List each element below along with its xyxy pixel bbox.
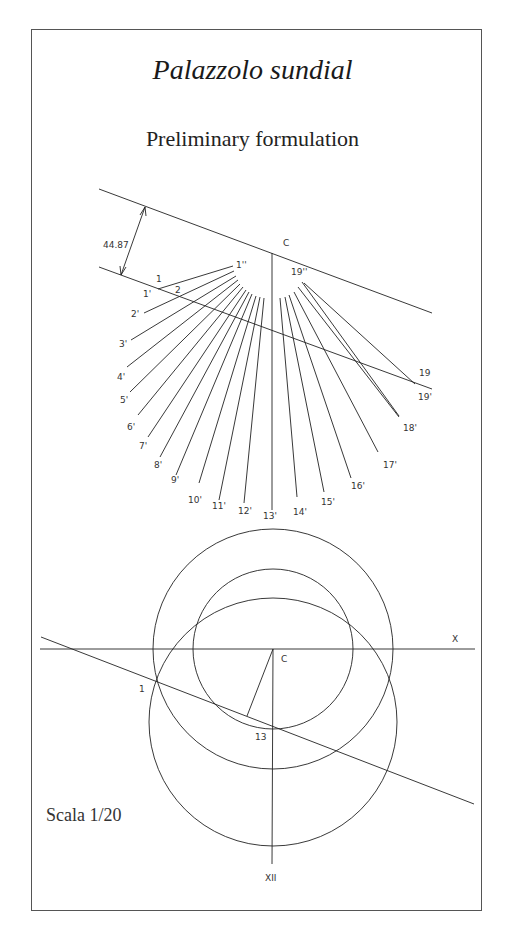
hour-lines-fan xyxy=(127,266,415,503)
scale-label: Scala 1/20 xyxy=(46,805,121,826)
label-1: 1 xyxy=(156,274,162,284)
noon-line xyxy=(272,649,273,864)
top-diagram: 44.87 C 1'' 19'' 1 2 1' 19 19' xyxy=(99,189,432,521)
center-label-bottom: C xyxy=(281,654,287,664)
svg-text:15': 15' xyxy=(321,497,335,507)
lower-parallel-line xyxy=(99,267,432,389)
svg-text:13': 13' xyxy=(263,511,277,521)
svg-text:14': 14' xyxy=(293,507,307,517)
point-13-label: 13 xyxy=(255,732,266,742)
svg-text:10': 10' xyxy=(188,495,202,505)
svg-text:7': 7' xyxy=(139,441,147,451)
bottom-diagram: X C 1 13 XII xyxy=(40,529,475,883)
label-19: 19 xyxy=(419,368,431,378)
noon-label: XII xyxy=(265,873,276,883)
label-1-double-prime: 1'' xyxy=(236,260,247,270)
hour-labels-prime: 2' 3' 4' 5' 6' 7' 8' 9' 10' 11' 12' 13' … xyxy=(117,309,417,521)
svg-text:18': 18' xyxy=(403,423,417,433)
label-1-prime-top: 1' xyxy=(143,289,151,299)
label-19-prime: 19' xyxy=(418,392,432,402)
radius-line xyxy=(247,649,273,716)
dimension-label: 44.87 xyxy=(103,240,129,250)
svg-text:12': 12' xyxy=(238,506,252,516)
svg-text:6': 6' xyxy=(127,422,135,432)
svg-text:4': 4' xyxy=(117,372,125,382)
svg-text:5': 5' xyxy=(120,395,128,405)
center-label-top: C xyxy=(283,238,289,248)
equinoctial-line xyxy=(41,637,474,804)
label-19-double-prime: 19'' xyxy=(291,267,307,277)
svg-text:11': 11' xyxy=(212,501,226,511)
svg-text:17': 17' xyxy=(383,460,397,470)
svg-text:9': 9' xyxy=(171,475,179,485)
svg-text:8': 8' xyxy=(154,460,162,470)
axis-x-label: X xyxy=(452,634,458,644)
svg-text:16': 16' xyxy=(351,481,365,491)
label-2: 2 xyxy=(175,285,181,295)
svg-text:3': 3' xyxy=(119,339,127,349)
point-1-label: 1 xyxy=(139,684,145,694)
svg-text:2': 2' xyxy=(131,309,139,319)
